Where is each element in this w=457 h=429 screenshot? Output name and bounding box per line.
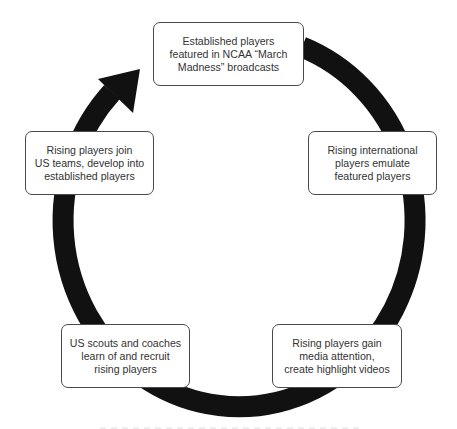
node-scouts-recruit: US scouts and coaches learn of and recru…: [61, 324, 190, 388]
node-international-emulate: Rising international players emulate fea…: [308, 131, 437, 195]
node-label: Established players featured in NCAA “Ma…: [170, 35, 288, 74]
node-label: Rising players gain media attention, cre…: [284, 337, 389, 376]
clipped-caption: [100, 424, 360, 429]
node-media-attention: Rising players gain media attention, cre…: [272, 324, 402, 388]
node-featured-players: Established players featured in NCAA “Ma…: [153, 22, 304, 86]
node-label: Rising international players emulate fea…: [327, 144, 417, 183]
node-label: US scouts and coaches learn of and recru…: [70, 337, 181, 376]
node-develop-established: Rising players join US teams, develop in…: [25, 131, 154, 195]
node-label: Rising players join US teams, develop in…: [35, 144, 145, 183]
